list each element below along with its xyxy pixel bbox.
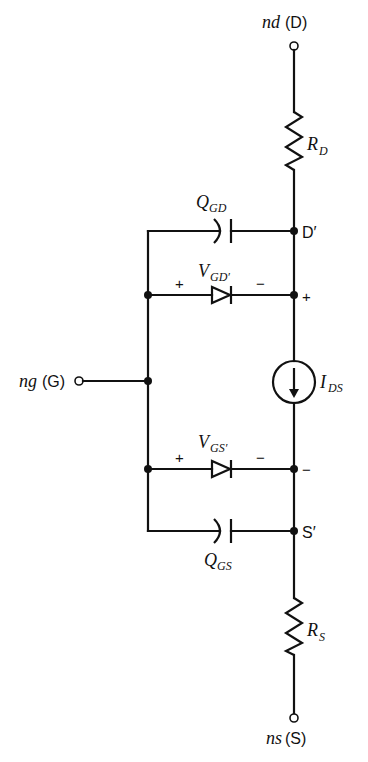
source-terminal-icon[interactable] [290, 714, 298, 722]
gate-node-name: ng [19, 371, 37, 391]
s-prime-node-dot [290, 527, 298, 535]
source-terminal-label: ns (S) [266, 728, 306, 748]
qgd-label-sub: GD [209, 201, 227, 215]
ids-label-sub: DS [327, 381, 343, 395]
source-terminal-name: (S) [285, 730, 306, 747]
vgs-minus-sign: − [256, 449, 265, 466]
drain-terminal-name: (D) [285, 14, 307, 31]
d-prime-label: D′ [302, 224, 317, 241]
vgd-right-junction-dot [290, 291, 298, 299]
drain-terminal-icon[interactable] [290, 42, 298, 50]
ids-label-symbol: I [319, 372, 327, 392]
rd-label-symbol: R [306, 134, 318, 154]
qgs-label-sub: GS [217, 559, 232, 573]
drain-terminal-label: nd (D) [262, 12, 307, 32]
vgs-plus-sign: + [175, 449, 184, 466]
gate-junction-dot [144, 377, 152, 385]
drain-node-name: nd [262, 12, 281, 32]
rd-label-sub: D [318, 144, 328, 158]
ids-plus-sign: + [302, 288, 311, 305]
s-prime-label: S′ [302, 524, 316, 541]
d-prime-node-dot [290, 227, 298, 235]
gate-terminal-name: (G) [42, 373, 65, 390]
rs-label-sub: S [319, 630, 325, 644]
current-arrow-head-icon [289, 389, 299, 398]
resistor-rd-icon [286, 112, 302, 170]
gate-terminal-icon[interactable] [75, 377, 83, 385]
vgd-plus-sign: + [175, 275, 184, 292]
qgs-label-symbol: Q [204, 550, 217, 570]
mosfet-equivalent-circuit: nd (D) R D ng (G) D′ Q GD V GD′ + − + I … [0, 0, 368, 762]
vgs-right-junction-dot [290, 465, 298, 473]
rs-label-symbol: R [306, 620, 318, 640]
source-node-name: ns [266, 728, 282, 748]
diode-vgd-icon [212, 287, 230, 303]
qgd-label-symbol: Q [196, 192, 209, 212]
diode-vgs-icon [212, 461, 230, 477]
resistor-rs-icon [286, 598, 302, 655]
gate-terminal-label: ng (G) [19, 371, 65, 391]
ids-minus-sign: − [302, 461, 311, 478]
vgd-label-sub: GD′ [210, 270, 230, 284]
vgd-minus-sign: − [256, 275, 265, 292]
vgs-label-sub: GS′ [210, 441, 228, 455]
